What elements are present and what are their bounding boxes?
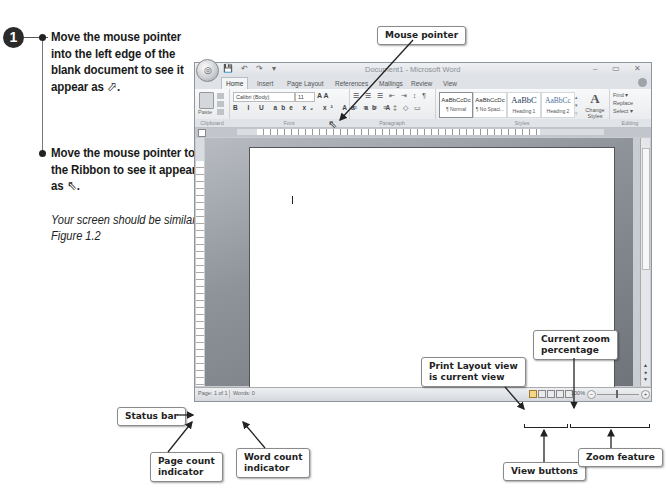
- style-no-spacing[interactable]: AaBbCcDc ¶ No Spaci...: [473, 92, 507, 118]
- outline-view-button[interactable]: [556, 390, 564, 398]
- style-name: ¶ Normal: [440, 106, 472, 112]
- tab-insert[interactable]: Insert: [253, 78, 277, 89]
- editing-group-label: Editing: [609, 119, 651, 127]
- paragraph-row-2-buttons[interactable]: ≡ ≡ ≡ ≡ ‡ ◇ ▭: [353, 104, 423, 112]
- close-button[interactable]: ✕: [634, 64, 647, 73]
- ruler-margin-left: [237, 129, 257, 135]
- callout-line: is current view: [429, 372, 518, 383]
- style-name: Heading 2: [542, 108, 574, 114]
- style-name: Heading 1: [508, 108, 540, 114]
- callout-print-layout: Print Layout view is current view: [421, 357, 526, 387]
- tab-view[interactable]: View: [439, 78, 461, 89]
- page-count-indicator[interactable]: Page: 1 of 1: [198, 390, 228, 396]
- editing-group: Find ▾ Replace Select ▾ Editing: [609, 89, 651, 127]
- bullet-icon: [39, 34, 46, 41]
- callout-view-buttons: View buttons: [503, 462, 586, 481]
- select-button[interactable]: Select ▾: [613, 108, 633, 114]
- status-bar: Page: 1 of 1 Words: 0 100% − +: [195, 387, 651, 401]
- styles-scroll-arrows[interactable]: ▴▾▿: [575, 93, 578, 117]
- callout-word-count: Word count indicator: [236, 448, 310, 478]
- paste-button-label[interactable]: Paste: [198, 109, 212, 115]
- zoom-out-button[interactable]: −: [587, 390, 596, 399]
- change-styles-label: Change Styles: [582, 107, 608, 119]
- office-logo-icon: ◎: [197, 60, 218, 81]
- window-controls: – ▭ ✕: [593, 64, 647, 73]
- mouse-pointer-icon: ⇖: [328, 118, 337, 131]
- zoom-slider-thumb[interactable]: [616, 390, 618, 398]
- paste-icon[interactable]: [199, 92, 214, 109]
- callout-line: Page count: [158, 456, 215, 467]
- vertical-ruler[interactable]: [196, 161, 204, 386]
- paragraph-group: ☰ ☰ ☰ ⇤ ⇥ ↕ ¶ ≡ ≡ ≡ ≡ ‡ ◇ ▭ Paragraph: [349, 89, 436, 127]
- figure-note: Your screen should be similar to Figure …: [51, 212, 217, 244]
- style-heading-2[interactable]: AaBbCc Heading 2: [541, 92, 575, 118]
- cut-icon[interactable]: [217, 93, 224, 99]
- undo-icon[interactable]: ↶: [241, 64, 251, 73]
- text-cursor: [292, 196, 293, 204]
- style-name: ¶ No Spaci...: [474, 106, 506, 112]
- style-normal[interactable]: AaBbCcDc ¶ Normal: [439, 92, 473, 118]
- word-count-indicator[interactable]: Words: 0: [233, 390, 255, 396]
- font-size-dropdown[interactable]: 11: [295, 92, 315, 102]
- vertical-scrollbar[interactable]: ▲●▼: [640, 138, 650, 386]
- zoom-percentage[interactable]: 100%: [571, 390, 585, 396]
- styles-group: AaBbCcDc ¶ Normal AaBbCcDc ¶ No Spaci...…: [435, 89, 610, 127]
- copy-icon[interactable]: [217, 101, 224, 107]
- callout-line: Current zoom: [541, 334, 610, 345]
- zoom-in-button[interactable]: +: [641, 390, 650, 399]
- browse-buttons[interactable]: ▲●▼: [642, 362, 649, 383]
- tab-mailings[interactable]: Mailings: [375, 78, 407, 89]
- style-heading-1[interactable]: AaBbC Heading 1: [507, 92, 541, 118]
- paragraph-row-1-buttons[interactable]: ☰ ☰ ☰ ⇤ ⇥ ↕ ¶: [353, 92, 428, 100]
- callout-line: indicator: [244, 463, 302, 474]
- scroll-thumb[interactable]: [642, 148, 650, 270]
- callout-line: percentage: [541, 345, 610, 356]
- style-sample: AaBbCc: [542, 96, 574, 105]
- callout-line: Word count: [244, 452, 302, 463]
- quick-access-toolbar[interactable]: 💾 ↶ ↷ ▾: [223, 64, 279, 73]
- find-button[interactable]: Find ▾: [613, 92, 628, 98]
- clipboard-group: Paste Clipboard: [195, 89, 230, 127]
- window-title: Document1 - Microsoft Word: [365, 65, 460, 74]
- tab-home[interactable]: Home: [221, 77, 248, 89]
- callout-current-zoom: Current zoom percentage: [533, 330, 618, 360]
- tab-page-layout[interactable]: Page Layout: [283, 78, 328, 89]
- step-number-badge: 1: [3, 27, 24, 48]
- replace-button[interactable]: Replace: [613, 100, 633, 106]
- style-sample: AaBbCcDc: [440, 97, 472, 103]
- instruction-1: Move the mouse pointer into the left edg…: [51, 29, 198, 95]
- clipboard-group-label: Clipboard: [195, 119, 229, 127]
- office-button[interactable]: ◎: [196, 59, 219, 82]
- maximize-button[interactable]: ▭: [612, 64, 626, 73]
- zoom-feature-bracket: [570, 424, 650, 428]
- change-styles-button[interactable]: A Change Styles: [582, 91, 608, 119]
- customize-qat-icon[interactable]: ▾: [272, 64, 279, 73]
- ribbon-tabs: Home Insert Page Layout References Maili…: [195, 77, 651, 89]
- redo-icon[interactable]: ↷: [256, 64, 266, 73]
- instruction-2: Move the mouse pointer to the Ribbon to …: [51, 145, 198, 195]
- horizontal-ruler[interactable]: [257, 129, 540, 135]
- zoom-slider-track[interactable]: [597, 394, 639, 395]
- grow-shrink-font-buttons[interactable]: A A: [317, 92, 329, 99]
- save-icon[interactable]: 💾: [223, 64, 236, 73]
- style-sample: AaBbC: [508, 95, 540, 105]
- full-screen-reading-view-button[interactable]: [538, 390, 546, 398]
- tab-references[interactable]: References: [331, 78, 372, 89]
- help-icon[interactable]: [638, 78, 647, 87]
- ruler-margin-right: [540, 129, 604, 135]
- minimize-button[interactable]: –: [593, 64, 603, 73]
- callout-mouse-pointer: Mouse pointer: [377, 26, 466, 45]
- web-layout-view-button[interactable]: [547, 390, 555, 398]
- paragraph-group-label: Paragraph: [349, 119, 435, 127]
- format-painter-icon[interactable]: [217, 109, 224, 115]
- change-styles-icon: A: [582, 91, 608, 107]
- view-buttons: [529, 390, 574, 398]
- print-layout-view-button[interactable]: [529, 390, 537, 398]
- vertical-ruler-margin: [196, 138, 204, 161]
- font-name-dropdown[interactable]: Calibri (Body): [233, 92, 295, 102]
- tab-review[interactable]: Review: [407, 78, 436, 89]
- callout-line: Print Layout view: [429, 361, 518, 372]
- title-bar: 💾 ↶ ↷ ▾ Document1 - Microsoft Word – ▭ ✕: [195, 63, 651, 77]
- step-connector-vertical: [42, 37, 43, 153]
- tab-selector-button[interactable]: [198, 129, 206, 137]
